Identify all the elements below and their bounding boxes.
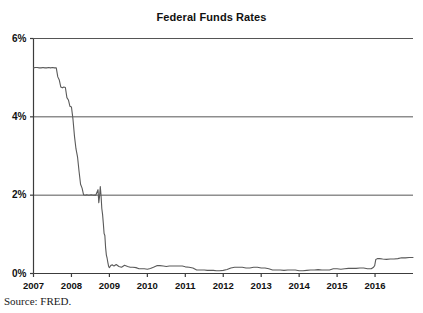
x-axis-label-2016: 2016 <box>355 280 395 291</box>
series-line-federal-funds-rate <box>34 67 414 270</box>
figure-federal-funds-rates: Federal Funds Rates 0%2%4%6% 20072008200… <box>0 0 423 313</box>
y-axis-label-0pct: 0% <box>1 269 27 279</box>
line-chart-plot <box>0 0 423 313</box>
y-axis-label-4pct: 4% <box>1 112 27 122</box>
source-note: Source: FRED. <box>4 295 71 307</box>
x-axis-label-2015: 2015 <box>317 280 357 291</box>
y-axis-label-2pct: 2% <box>1 190 27 200</box>
x-axis-label-2007: 2007 <box>14 280 54 291</box>
x-axis-label-2009: 2009 <box>89 280 129 291</box>
x-axis-label-2010: 2010 <box>127 280 167 291</box>
y-axis-label-6pct: 6% <box>1 34 27 44</box>
x-axis-label-2013: 2013 <box>241 280 281 291</box>
x-axis-label-2008: 2008 <box>51 280 91 291</box>
axis-lines <box>34 39 414 274</box>
x-axis-label-2014: 2014 <box>279 280 319 291</box>
x-axis-label-2011: 2011 <box>165 280 205 291</box>
x-axis-label-2012: 2012 <box>203 280 243 291</box>
gridlines <box>34 39 414 196</box>
